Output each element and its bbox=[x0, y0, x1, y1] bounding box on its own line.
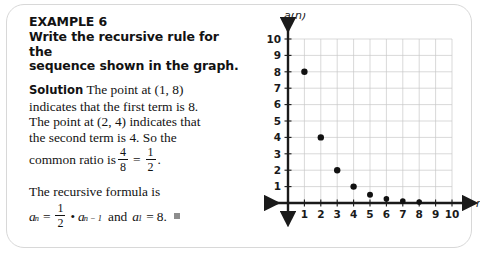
solution-line-3: The point at (2, 4) indicates that bbox=[29, 114, 241, 130]
data-point bbox=[334, 167, 340, 173]
solution-line-2: indicates that the first term is 8. bbox=[29, 99, 241, 115]
y-tick-label: 10 bbox=[266, 33, 281, 45]
example-prompt-line-2: sequence shown in the graph. bbox=[29, 59, 241, 74]
x-tick-label: 5 bbox=[366, 208, 373, 220]
recursive-formula: an = 1 2 • an − 1 and a1 = 8. bbox=[29, 203, 241, 230]
fraction-numerator: 1 bbox=[146, 146, 156, 158]
example-title: EXAMPLE 6 bbox=[29, 15, 241, 30]
sequence-graph: 12345678910 12345678910 a(n)n bbox=[250, 13, 480, 243]
ratio-equals-sign: = bbox=[133, 152, 141, 168]
formula-equals-sign: = bbox=[43, 209, 51, 225]
y-tick-label: 1 bbox=[274, 180, 281, 192]
x-tick-label: 7 bbox=[399, 208, 406, 220]
common-ratio-line: common ratio is 4 8 = 1 2 . bbox=[29, 147, 241, 174]
data-points bbox=[301, 69, 422, 205]
fraction-denominator: 2 bbox=[55, 217, 65, 229]
x-tick-label: 8 bbox=[416, 208, 423, 220]
y-tick-label: 5 bbox=[274, 115, 281, 127]
formula-a-subscript: n bbox=[35, 211, 39, 227]
y-axis-title: a(n) bbox=[284, 13, 306, 22]
fraction-numerator: 4 bbox=[118, 146, 128, 158]
formula-first-equals-sign: = bbox=[146, 209, 154, 225]
formula-first-value: 8. bbox=[157, 209, 167, 225]
data-point bbox=[318, 134, 324, 140]
y-tick-label: 8 bbox=[274, 66, 281, 78]
x-tick-label: 1 bbox=[301, 208, 308, 220]
data-point bbox=[384, 196, 390, 202]
y-tick-label: 2 bbox=[274, 164, 281, 176]
y-tick-label: 7 bbox=[274, 82, 281, 94]
x-axis-tick-labels: 12345678910 bbox=[301, 208, 460, 220]
data-point bbox=[301, 69, 307, 75]
x-tick-label: 6 bbox=[383, 208, 390, 220]
fraction-denominator: 8 bbox=[118, 161, 128, 173]
x-axis-title: n bbox=[476, 197, 480, 210]
tick-marks bbox=[285, 39, 453, 207]
data-point bbox=[367, 192, 373, 198]
axes bbox=[272, 25, 470, 219]
x-tick-label: 9 bbox=[432, 208, 439, 220]
fraction-denominator: 2 bbox=[146, 161, 156, 173]
example-prompt-line-1: Write the recursive rule for the bbox=[29, 30, 241, 60]
formula-prev-subscript: n − 1 bbox=[84, 211, 102, 227]
example-card: EXAMPLE 6 Write the recursive rule for t… bbox=[6, 4, 472, 248]
solution-line-4: the second term is 4. So the bbox=[29, 130, 241, 146]
text-column: EXAMPLE 6 Write the recursive rule for t… bbox=[29, 15, 241, 230]
solution-label: Solution bbox=[29, 83, 83, 97]
data-point bbox=[350, 183, 356, 189]
formula-first-subscript: 1 bbox=[138, 211, 142, 227]
y-tick-label: 9 bbox=[274, 49, 281, 61]
fraction-one-half: 1 2 bbox=[146, 146, 156, 173]
x-tick-label: 2 bbox=[317, 208, 324, 220]
x-tick-label: 4 bbox=[350, 208, 357, 220]
formula-conjunction: and bbox=[108, 209, 127, 225]
recursive-formula-intro: The recursive formula is bbox=[29, 184, 241, 200]
x-tick-label: 3 bbox=[334, 208, 341, 220]
solution-block: Solution The point at (1, 8) indicates t… bbox=[29, 82, 241, 173]
y-axis-tick-labels: 12345678910 bbox=[266, 33, 281, 193]
graph-svg: 12345678910 12345678910 a(n)n bbox=[250, 13, 480, 243]
data-point bbox=[416, 199, 422, 205]
y-tick-label: 4 bbox=[274, 131, 281, 143]
fraction-one-half-coefficient: 1 2 bbox=[55, 202, 65, 229]
end-of-proof-square-icon bbox=[174, 213, 180, 219]
solution-first-line: Solution The point at (1, 8) bbox=[29, 82, 241, 99]
solution-line-1: The point at (1, 8) bbox=[86, 82, 183, 97]
multiplication-dot: • bbox=[70, 209, 75, 225]
data-point bbox=[400, 198, 406, 204]
ratio-period: . bbox=[158, 152, 161, 168]
common-ratio-prefix: common ratio is bbox=[29, 152, 116, 168]
grid-lines bbox=[288, 39, 452, 203]
y-tick-label: 3 bbox=[274, 148, 281, 160]
y-tick-label: 6 bbox=[274, 98, 281, 110]
example-heading: EXAMPLE 6 Write the recursive rule for t… bbox=[29, 15, 241, 74]
fraction-numerator: 1 bbox=[55, 202, 65, 214]
fraction-four-eighths: 4 8 bbox=[118, 146, 128, 173]
axis-titles: a(n)n bbox=[284, 13, 480, 210]
x-tick-label: 10 bbox=[445, 208, 460, 220]
